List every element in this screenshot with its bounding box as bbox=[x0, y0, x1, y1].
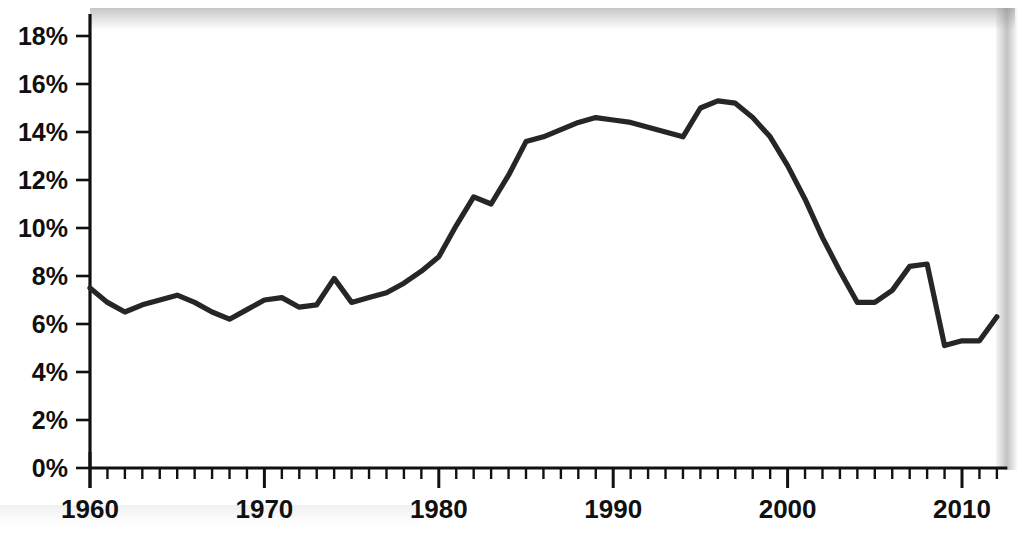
x-tick-label: 1970 bbox=[235, 494, 293, 524]
y-tick-label: 10% bbox=[18, 214, 68, 242]
y-axis-tick-labels: 0%2%4%6%8%10%12%14%16%18% bbox=[18, 22, 68, 482]
x-tick-label: 1980 bbox=[410, 494, 468, 524]
x-tick-label: 2000 bbox=[759, 494, 817, 524]
y-tick-label: 18% bbox=[18, 22, 68, 50]
y-tick-label: 12% bbox=[18, 166, 68, 194]
chart-container: 0%2%4%6%8%10%12%14%16%18% 19601970198019… bbox=[0, 0, 1022, 534]
y-tick-label: 6% bbox=[32, 310, 68, 338]
line-chart-plot: 0%2%4%6%8%10%12%14%16%18% 19601970198019… bbox=[0, 0, 1022, 534]
y-tick-label: 8% bbox=[32, 262, 68, 290]
x-axis-minor-ticks bbox=[107, 468, 996, 479]
y-tick-label: 4% bbox=[32, 358, 68, 386]
x-tick-label: 2010 bbox=[933, 494, 991, 524]
data-series-line bbox=[90, 101, 997, 346]
y-tick-label: 16% bbox=[18, 70, 68, 98]
y-tick-label: 2% bbox=[32, 406, 68, 434]
y-axis-ticks bbox=[76, 36, 90, 468]
x-tick-label: 1990 bbox=[584, 494, 642, 524]
y-tick-label: 0% bbox=[32, 454, 68, 482]
y-tick-label: 14% bbox=[18, 118, 68, 146]
x-tick-label: 1960 bbox=[61, 494, 119, 524]
x-axis-tick-labels: 196019701980199020002010 bbox=[61, 494, 991, 524]
